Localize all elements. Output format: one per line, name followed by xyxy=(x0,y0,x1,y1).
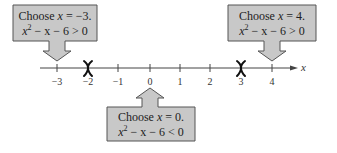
callout-right-line2: x2 − x − 6 > 0 xyxy=(238,23,305,38)
callout-left: Choose x = −3. x2 − x − 6 > 0 xyxy=(13,5,97,61)
callout-right: Choose x = 4. x2 − x − 6 > 0 xyxy=(228,5,316,61)
tick-label: 3 xyxy=(239,76,244,87)
callout-right-line1: Choose x = 4. xyxy=(239,9,305,23)
number-line: x −3 −2 −1 0 1 2 3 4 xyxy=(40,61,306,87)
tick-label: 0 xyxy=(148,76,153,87)
tick-label: −2 xyxy=(83,76,94,87)
axis-arrowhead-icon xyxy=(290,66,298,71)
callout-bottom-line2: x2 − x − 6 < 0 xyxy=(117,124,184,139)
sign-test-diagram: Choose x = −3. x2 − x − 6 > 0 Choose x =… xyxy=(0,0,337,153)
callout-bottom: Choose x = 0. x2 − x − 6 < 0 xyxy=(107,88,195,141)
callout-left-line2: x2 − x − 6 > 0 xyxy=(21,23,88,38)
tick-label: −1 xyxy=(113,76,124,87)
tick-label: 4 xyxy=(270,76,275,87)
tick-label: −3 xyxy=(52,76,63,87)
axis-variable-label: x xyxy=(300,61,306,73)
tick-label: 1 xyxy=(178,76,183,87)
tick-label: 2 xyxy=(208,76,213,87)
callout-left-line1: Choose x = −3. xyxy=(19,9,92,23)
callout-bottom-line1: Choose x = 0. xyxy=(118,110,184,124)
